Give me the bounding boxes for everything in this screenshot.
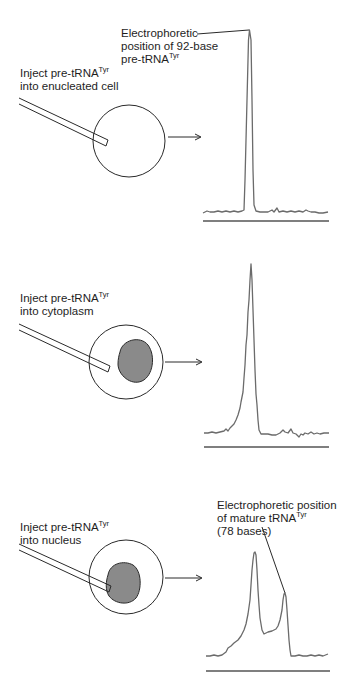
injection-label-line1: Inject pre-tRNATyr [20,290,110,304]
annotation-line1: Electrophoretic [121,27,198,39]
arrow-right-icon [168,134,201,140]
injection-label-line1: Inject pre-tRNATyr [20,519,110,533]
annotation-line1: Electrophoretic position [217,499,337,511]
injection-label-line2: into nucleus [20,534,82,546]
injection-label-line1: Inject pre-tRNATyr [20,65,110,79]
injection-label-line2: into enucleated cell [20,80,118,92]
panel-cytoplasm: Inject pre-tRNATyr into cytoplasm [19,264,329,447]
annotation-leader-line [262,527,285,593]
injection-label-line2: into cytoplasm [20,305,94,317]
annotation-line3: pre-tRNATyr [121,51,180,65]
panel-nucleus: Electrophoretic position of mature tRNAT… [19,499,337,671]
electrophoresis-trace-1 [203,30,329,221]
arrow-right-icon [165,575,202,581]
electrophoresis-trace-2 [204,264,329,447]
cell-icon [93,105,165,177]
annotation-line2: of mature tRNATyr [217,510,307,524]
electrophoresis-trace-3 [206,552,330,671]
arrow-right-icon [165,359,202,365]
nucleus-icon [106,563,140,603]
panel-enucleated: Electrophoretic position of 92-base pre-… [19,27,329,221]
figure-canvas: Electrophoretic position of 92-base pre-… [0,0,348,677]
annotation-leader-line [197,30,249,34]
nucleus-icon [118,340,153,383]
